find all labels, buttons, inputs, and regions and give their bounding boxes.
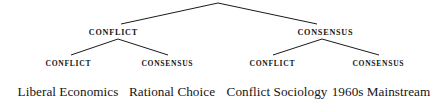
leaf-1960s-mainstream: 1960s Mainstream — [332, 85, 431, 98]
edge-consensus-to-conflict — [273, 39, 322, 55]
node-level2-conflict-left: CONFLICT — [45, 60, 91, 68]
leaf-liberal-economics: Liberal Economics — [18, 85, 119, 98]
tree-diagram: CONFLICT CONSENSUS CONFLICT CONSENSUS CO… — [0, 0, 436, 101]
node-level2-consensus-left: CONSENSUS — [141, 60, 194, 68]
edge-root-to-consensus — [218, 3, 317, 24]
edge-conflict-to-consensus — [118, 39, 168, 55]
node-level2-conflict-right: CONFLICT — [249, 60, 295, 68]
node-level1-conflict: CONFLICT — [88, 29, 138, 37]
leaf-rational-choice: Rational Choice — [129, 85, 215, 98]
node-level1-consensus: CONSENSUS — [297, 29, 354, 37]
edge-consensus-to-consensus — [322, 39, 379, 55]
node-level2-consensus-right: CONSENSUS — [352, 60, 405, 68]
leaf-conflict-sociology: Conflict Sociology — [227, 85, 328, 98]
edge-root-to-conflict — [121, 3, 218, 24]
edge-conflict-to-conflict — [71, 39, 118, 55]
